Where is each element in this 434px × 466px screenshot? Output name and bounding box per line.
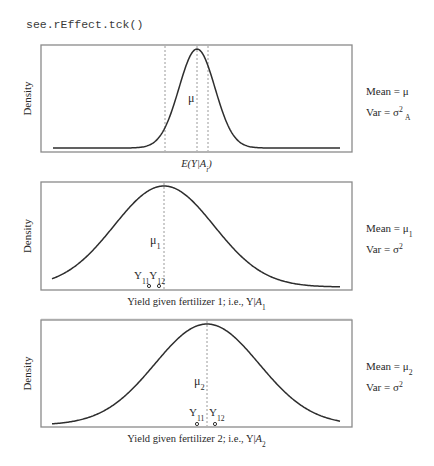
- variance-subscript: A: [405, 113, 411, 122]
- variance-annotation: Var = σ2: [366, 242, 403, 256]
- x-axis-label: Yield given fertilizer 1; i.e., Y|A1: [127, 296, 266, 312]
- y-axis-label: Density: [21, 356, 33, 391]
- density-panel-3: Densityμ2Y11Y12Yield given fertilizer 2;…: [21, 320, 413, 449]
- observation-label: Y12: [209, 406, 225, 423]
- variance-annotation: Var = σ2: [366, 104, 403, 118]
- mean-label: μ2: [194, 374, 205, 392]
- density-plots: DensityμE(Y|Ai)Mean = μVar = σ2ADensityμ…: [0, 0, 434, 466]
- x-axis-label: E(Y|Ai): [180, 158, 212, 174]
- y-axis-label: Density: [21, 218, 33, 253]
- density-panel-2: Densityμ1Y11Y12Yield given fertilizer 1;…: [21, 182, 413, 312]
- density-curve: [52, 186, 340, 287]
- mean-annotation: Mean = μ: [366, 85, 409, 97]
- mean-annotation: Mean = μ2: [366, 360, 413, 377]
- observation-labels: Y11Y12: [134, 269, 165, 286]
- density-panel-1: DensityμE(Y|Ai)Mean = μVar = σ2A: [21, 45, 411, 174]
- observation-label: Y11: [189, 406, 205, 423]
- variance-annotation: Var = σ2: [366, 379, 403, 393]
- y-axis-label: Density: [21, 81, 33, 116]
- plot-frame: [41, 182, 352, 290]
- mean-label: μ: [188, 91, 194, 105]
- x-axis-label: Yield given fertilizer 2; i.e., Y|A2: [127, 433, 266, 449]
- mean-annotation: Mean = μ1: [366, 222, 413, 239]
- observation-point: [213, 422, 216, 425]
- mean-label: μ1: [150, 233, 161, 251]
- observation-point: [195, 422, 198, 425]
